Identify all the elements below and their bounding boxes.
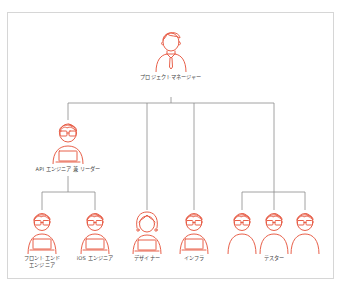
engineer-with-laptop-icon: [174, 210, 214, 254]
node-frontend-engineer: [22, 210, 62, 254]
label-infra-engineer: インフラ: [164, 255, 224, 262]
label-api-engineer-leader: API エンジニア 兼 リーダー: [18, 166, 118, 173]
label-project-manager: プロジェクトマネージャー: [131, 74, 211, 81]
engineer-with-laptop-icon: [48, 120, 88, 164]
node-designer: [127, 210, 167, 254]
label-testers: テスター: [244, 255, 304, 262]
label-line-1: フロントエンド: [12, 255, 72, 262]
designer-with-laptop-icon: [127, 210, 167, 254]
node-project-manager: [151, 28, 191, 72]
tester-person-icon: [285, 210, 325, 254]
label-ios-engineer: iOS エンジニア: [65, 255, 125, 262]
engineer-with-laptop-icon: [22, 210, 62, 254]
node-infra-engineer: [174, 210, 214, 254]
label-frontend-engineer: フロントエンド エンジニア: [12, 255, 72, 269]
engineer-with-laptop-icon: [75, 210, 115, 254]
node-ios-engineer: [75, 210, 115, 254]
label-line-2: エンジニア: [12, 262, 72, 269]
node-api-engineer-leader: [48, 120, 88, 164]
node-tester-3: [285, 210, 325, 254]
manager-person-icon: [151, 28, 191, 72]
